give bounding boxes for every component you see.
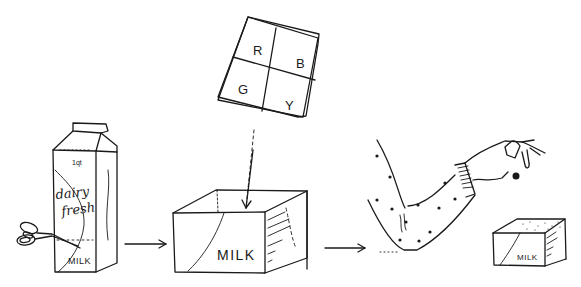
small-box-milk-label: MILK	[517, 253, 538, 262]
card-cell-b: B	[296, 56, 305, 71]
carton-milk-label: MILK	[68, 256, 91, 266]
card-cell-y: Y	[285, 98, 294, 113]
cut-milk-box: MILK	[173, 190, 307, 273]
process-diagram: 1qt dairy fresh MILK R B G Y	[0, 0, 581, 287]
carton-size-label: 1qt	[72, 159, 82, 167]
carton-brand-line1: dairy	[55, 183, 91, 202]
small-milk-box: MILK	[493, 219, 566, 266]
arrow-carton-to-box	[125, 240, 166, 248]
card-cell-g: G	[238, 82, 248, 97]
scissors-icon	[16, 220, 80, 248]
color-card: R B G Y	[218, 17, 319, 117]
dropped-ball	[513, 173, 520, 180]
carton-brand-line2: fresh	[59, 199, 96, 219]
arrow-box-to-hand	[325, 244, 365, 252]
card-cell-r: R	[253, 43, 262, 58]
arrow-card-to-box	[242, 130, 254, 208]
hand	[465, 140, 545, 180]
milk-carton: 1qt dairy fresh MILK	[53, 123, 117, 272]
box-milk-label: MILK	[217, 247, 256, 263]
arm-sleeve	[368, 140, 475, 250]
